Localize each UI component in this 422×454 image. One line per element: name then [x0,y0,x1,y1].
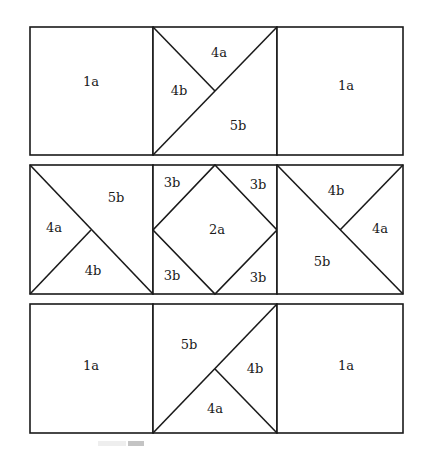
patch-label: 5b [230,118,247,133]
row-1: 1a 4a 4b 5b 1a [30,27,403,155]
patch-label: 4b [171,83,188,98]
row-2: 5b 4a 4b 3b 3b 2a 3b 3b 4b 4a 5b [30,165,403,294]
patch-label: 1a [83,74,99,89]
row-3: 1a 5b 4b 4a 1a [30,304,403,433]
block-r3-c3: 1a [277,304,403,433]
patch-label: 3b [250,177,267,192]
patch-label: 5b [181,337,198,352]
patch-label: 2a [209,222,225,237]
patch-label: 4a [211,45,227,60]
patch-label: 4a [46,220,62,235]
patch-label: 1a [338,358,354,373]
block-r3-c2: 5b 4b 4a [153,304,277,433]
block-r1-c2: 4a 4b 5b [153,27,277,155]
patch-label: 4b [247,361,264,376]
block-r2-c1: 5b 4a 4b [30,165,153,294]
scan-artifact [98,441,126,446]
patch-label: 1a [338,78,354,93]
patch-label: 5b [314,254,331,269]
block-r2-c2: 3b 3b 2a 3b 3b [153,165,277,294]
patch-label: 3b [164,175,181,190]
patch-label: 4a [372,221,388,236]
block-r1-c3: 1a [277,27,403,155]
quilt-assembly-diagram: 1a 4a 4b 5b 1a 5b 4a 4b 3b 3b [0,0,422,454]
patch-label: 4b [328,183,345,198]
patch-label: 5b [108,190,125,205]
block-r2-c3: 4b 4a 5b [277,165,403,294]
patch-label: 1a [83,358,99,373]
block-r1-c1: 1a [30,27,153,155]
patch-label: 4a [207,401,223,416]
patch-label: 3b [164,268,181,283]
patch-label: 4b [85,263,102,278]
patch-label: 3b [250,270,267,285]
scan-artifact [128,441,144,446]
block-r3-c1: 1a [30,304,153,433]
